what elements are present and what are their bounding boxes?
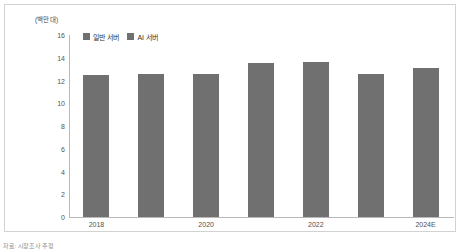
- y-axis-tick-10: 10: [39, 100, 65, 107]
- y-axis-tick-12: 12: [39, 77, 65, 84]
- y-axis-tick-8: 8: [39, 123, 65, 130]
- bar-2021: [248, 63, 274, 217]
- chart-footnote: 자료: 시장조사 추정: [3, 241, 54, 250]
- x-axis-tick-2018: 2018: [89, 221, 105, 228]
- y-axis-tick-6: 6: [39, 145, 65, 152]
- bar-2018: [83, 75, 109, 217]
- chart-card: (백만 대) 일반 서버 AI 서버 1614121086420 2018202…: [4, 4, 456, 232]
- x-axis-tick-2020: 2020: [198, 221, 214, 228]
- bar-2022: [303, 62, 329, 217]
- x-axis-tick-2022: 2022: [308, 221, 324, 228]
- bar-2023: [358, 74, 384, 217]
- bar-2019: [138, 74, 164, 217]
- x-axis-tick-labels: 2018202020222024E: [69, 219, 453, 235]
- y-axis-tick-2: 2: [39, 191, 65, 198]
- x-axis-tick-2024E: 2024E: [415, 221, 435, 228]
- bar-2024E: [413, 68, 439, 217]
- y-axis-tick-4: 4: [39, 168, 65, 175]
- y-axis-unit-label: (백만 대): [35, 14, 58, 24]
- bar-2020: [193, 74, 219, 217]
- plot-area: [69, 35, 453, 217]
- y-axis-tick-14: 14: [39, 54, 65, 61]
- y-axis-tick-16: 16: [39, 32, 65, 39]
- y-axis-tick-labels: 1614121086420: [35, 35, 65, 217]
- x-axis-line: [69, 217, 454, 218]
- y-axis-tick-0: 0: [39, 214, 65, 221]
